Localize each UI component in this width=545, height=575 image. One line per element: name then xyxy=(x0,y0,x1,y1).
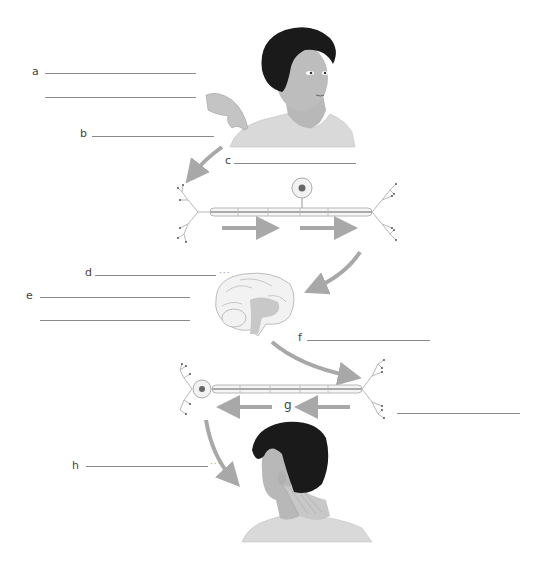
motor-neuron xyxy=(180,360,384,418)
blank-g[interactable] xyxy=(397,413,520,414)
diagram-artwork xyxy=(0,0,545,575)
blank-d[interactable] xyxy=(95,275,216,276)
label-g: g xyxy=(284,400,292,411)
leader-dots-h: ··· xyxy=(210,459,222,469)
brain-figure xyxy=(216,273,294,336)
label-e: e xyxy=(26,290,33,301)
blank-f[interactable] xyxy=(307,340,430,341)
label-d: d xyxy=(85,267,92,278)
blank-h[interactable] xyxy=(86,466,208,467)
blank-e-1[interactable] xyxy=(40,297,190,298)
blank-b[interactable] xyxy=(92,136,214,137)
label-h: h xyxy=(72,460,79,471)
person-touched-figure xyxy=(206,27,355,147)
sensory-neuron xyxy=(178,178,396,242)
arrow-4 xyxy=(206,420,232,478)
arrow-1 xyxy=(193,147,222,174)
person-turning-figure xyxy=(242,422,372,542)
blank-a-1[interactable] xyxy=(45,73,196,74)
blank-c[interactable] xyxy=(234,163,356,164)
label-a: a xyxy=(32,66,39,77)
arrow-3 xyxy=(272,342,350,376)
arrow-2 xyxy=(315,252,360,288)
blank-a-2[interactable] xyxy=(45,97,196,98)
label-f: f xyxy=(298,332,302,343)
label-c: c xyxy=(225,155,231,166)
label-b: b xyxy=(80,128,87,139)
blank-e-2[interactable] xyxy=(40,320,190,321)
leader-dots-d: ··· xyxy=(219,268,231,278)
